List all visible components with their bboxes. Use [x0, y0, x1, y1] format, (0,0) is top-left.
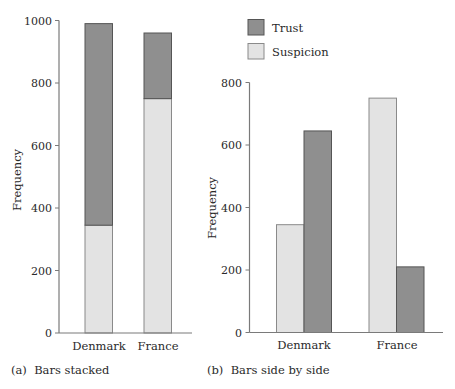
panel-a-bar-france-suspicion [144, 99, 172, 333]
panel-b-y-ticks: 0200400600800 [221, 77, 250, 340]
panel-b-y-tick-label: 800 [221, 77, 242, 90]
panel-a-y-tick-label: 200 [31, 265, 52, 278]
panel-b-caption: (b) Bars side by side [207, 363, 330, 377]
panel-a-category-denmark: Denmark [72, 339, 127, 353]
panel-a-bars [85, 24, 172, 333]
legend-label-suspicion: Suspicion [272, 45, 329, 59]
panel-a-bar-france-trust [144, 33, 172, 99]
legend: Trust Suspicion [248, 20, 329, 60]
panel-a-stacked-chart: Frequency 02004006008001000 Denmark Fran… [10, 15, 192, 378]
legend-item-trust: Trust [248, 20, 303, 36]
panel-b-bars [277, 98, 425, 332]
panel-a-y-tick-label: 0 [45, 327, 52, 340]
legend-swatch-trust [248, 20, 264, 36]
legend-swatch-suspicion [248, 44, 264, 60]
panel-b-bar-france-suspicion [369, 98, 397, 332]
panel-a-category-france: France [138, 339, 179, 353]
panel-a-bar-denmark-trust [85, 24, 113, 226]
panel-a-y-tick-label: 600 [31, 140, 52, 153]
panel-b-y-tick-label: 0 [235, 327, 242, 340]
figure: Frequency 02004006008001000 Denmark Fran… [0, 0, 455, 389]
panel-a-caption: (a) Bars stacked [11, 363, 110, 377]
panel-b-bar-denmark-trust [304, 131, 332, 333]
panel-a-y-tick-label: 800 [31, 77, 52, 90]
legend-label-trust: Trust [272, 21, 303, 35]
panel-b-bar-denmark-suspicion [277, 225, 305, 333]
panel-a-y-tick-label: 1000 [24, 15, 52, 28]
panel-b-y-axis-title: Frequency [205, 176, 219, 239]
panel-b-category-denmark: Denmark [277, 338, 332, 352]
panel-b-grouped-chart: Trust Suspicion Frequency 0200400600800 … [205, 20, 443, 378]
panel-a-y-ticks: 02004006008001000 [24, 15, 59, 341]
panel-b-y-tick-label: 200 [221, 264, 242, 277]
panel-a-y-tick-label: 400 [31, 202, 52, 215]
panel-a-bar-denmark-suspicion [85, 225, 113, 333]
panel-b-y-tick-label: 600 [221, 139, 242, 152]
panel-a-y-axis-title: Frequency [10, 148, 24, 211]
panel-b-category-france: France [377, 338, 418, 352]
panel-b-y-tick-label: 400 [221, 202, 242, 215]
legend-item-suspicion: Suspicion [248, 44, 329, 60]
panel-b-bar-france-trust [397, 267, 425, 333]
